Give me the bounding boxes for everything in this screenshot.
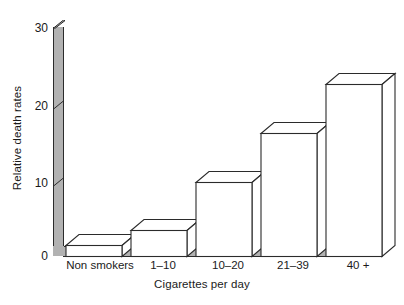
y-axis-wall (53, 27, 64, 256)
bar-40-plus (326, 73, 398, 261)
x-tick-label-40-plus: 40 + (318, 258, 398, 272)
bar-non-smokers (66, 234, 138, 260)
bar-1-10 (131, 219, 203, 261)
y-tick-mark-10 (53, 177, 66, 187)
y-tick-mark-20 (53, 100, 66, 110)
y-axis-wall-top-cap (53, 20, 66, 29)
bar-10-20 (196, 171, 268, 261)
x-axis-tick-labels: Non smokers 1–10 10–20 21–39 40 + (0, 258, 404, 276)
bar-21-39 (261, 122, 333, 261)
x-axis-title: Cigarettes per day (0, 278, 404, 290)
bar-chart: Relative death rates 30 20 10 0 (0, 0, 404, 305)
